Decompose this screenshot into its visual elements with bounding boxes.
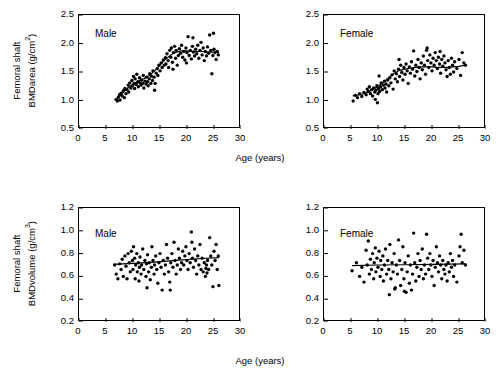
y-tick-label: 1.0 bbox=[42, 225, 74, 235]
y-tick-label: 2.0 bbox=[42, 38, 74, 48]
x-tick-label: 0 bbox=[66, 326, 90, 336]
x-tick-label: 0 bbox=[311, 326, 335, 336]
scatter-svg-male-bmd-volume bbox=[79, 208, 241, 322]
x-tick-label: 15 bbox=[147, 133, 171, 143]
x-tick-label: 25 bbox=[446, 326, 470, 336]
x-tick-label: 30 bbox=[228, 326, 252, 336]
x-axis-label-top-row: Age (years) bbox=[180, 152, 340, 163]
y-tick-label: 0.8 bbox=[287, 248, 319, 258]
y-tick-label: 0.6 bbox=[42, 270, 74, 280]
y-axis-label-line1: Femoral shaft bbox=[11, 235, 22, 293]
x-tick-label: 0 bbox=[66, 133, 90, 143]
y-tick-label: 0.8 bbox=[42, 248, 74, 258]
y-axis-label-volume-left: Femoral shaft BMDvolume (g/cm3) bbox=[11, 209, 36, 319]
y-tick-label: 1.0 bbox=[287, 95, 319, 105]
x-tick-label: 25 bbox=[201, 326, 225, 336]
plot-area-male-bmd-volume bbox=[78, 207, 240, 321]
x-tick-label: 30 bbox=[473, 326, 497, 336]
y-tick-label: 0.6 bbox=[287, 270, 319, 280]
panel-label-male-volume: Male bbox=[95, 228, 117, 239]
x-tick-label: 30 bbox=[473, 133, 497, 143]
y-axis-label-line1: Femoral shaft bbox=[11, 42, 22, 100]
x-tick-label: 0 bbox=[311, 133, 335, 143]
panel-label-female-area: Female bbox=[340, 28, 373, 39]
y-tick-label: 1.5 bbox=[287, 66, 319, 76]
y-tick-label: 1.5 bbox=[42, 66, 74, 76]
data-points bbox=[115, 32, 220, 103]
data-points bbox=[351, 46, 467, 104]
x-tick-label: 25 bbox=[446, 133, 470, 143]
y-axis-label-line2: BMDarea (g/cm2) bbox=[22, 16, 36, 126]
y-tick-label: 0.2 bbox=[287, 316, 319, 326]
y-tick-label: 1.0 bbox=[287, 225, 319, 235]
y-axis-label-line2: BMDvolume (g/cm3) bbox=[22, 209, 36, 319]
y-tick-label: 0.5 bbox=[287, 123, 319, 133]
y-tick-label: 0.2 bbox=[42, 316, 74, 326]
y-tick-label: 2.0 bbox=[287, 38, 319, 48]
x-tick-label: 25 bbox=[201, 133, 225, 143]
x-tick-label: 20 bbox=[419, 133, 443, 143]
x-tick-label: 20 bbox=[174, 133, 198, 143]
panel-label-female-volume: Female bbox=[340, 228, 373, 239]
x-tick-label: 5 bbox=[338, 326, 362, 336]
y-tick-label: 2.5 bbox=[287, 9, 319, 19]
y-tick-label: 1.2 bbox=[287, 202, 319, 212]
plot-area-female-bmd-volume bbox=[323, 207, 485, 321]
x-tick-label: 15 bbox=[392, 133, 416, 143]
x-tick-label: 5 bbox=[93, 326, 117, 336]
y-tick-label: 1.0 bbox=[42, 95, 74, 105]
x-tick-label: 5 bbox=[338, 133, 362, 143]
figure-root: Femoral shaft BMDarea (g/cm2) Male Femal… bbox=[0, 0, 504, 379]
y-axis-label-area-left: Femoral shaft BMDarea (g/cm2) bbox=[11, 16, 36, 126]
x-tick-label: 15 bbox=[147, 326, 171, 336]
y-tick-label: 0.4 bbox=[42, 293, 74, 303]
x-tick-label: 20 bbox=[419, 326, 443, 336]
x-tick-label: 10 bbox=[120, 326, 144, 336]
scatter-svg-female-bmd-volume bbox=[324, 208, 486, 322]
x-tick-label: 15 bbox=[392, 326, 416, 336]
y-tick-label: 0.5 bbox=[42, 123, 74, 133]
y-tick-label: 0.4 bbox=[287, 293, 319, 303]
x-axis-label-bottom-row: Age (years) bbox=[180, 355, 340, 366]
x-tick-label: 10 bbox=[120, 133, 144, 143]
x-tick-label: 30 bbox=[228, 133, 252, 143]
x-tick-label: 5 bbox=[93, 133, 117, 143]
x-tick-label: 20 bbox=[174, 326, 198, 336]
y-tick-label: 1.2 bbox=[42, 202, 74, 212]
x-tick-label: 10 bbox=[365, 133, 389, 143]
y-tick-label: 2.5 bbox=[42, 9, 74, 19]
x-tick-label: 10 bbox=[365, 326, 389, 336]
panel-label-male-area: Male bbox=[95, 28, 117, 39]
